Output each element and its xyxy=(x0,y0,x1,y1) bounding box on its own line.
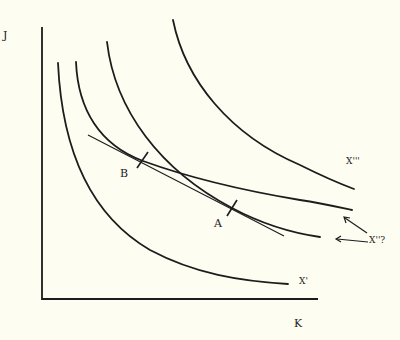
axes xyxy=(42,27,318,299)
diagram-canvas xyxy=(0,0,400,340)
x-axis-label: K xyxy=(294,318,302,329)
curve-x-triple-prime xyxy=(173,20,354,189)
arrow-to-upper-curve xyxy=(345,218,367,233)
curve-x-prime xyxy=(58,63,288,284)
y-axis-label: J xyxy=(3,30,7,41)
curve-label-x-triple-prime: X''' xyxy=(346,157,360,166)
point-b-label: B xyxy=(120,168,128,179)
curve-label-x-prime: X' xyxy=(299,277,308,286)
tangent-line xyxy=(88,135,284,236)
arrow-to-lower-curve xyxy=(337,239,368,242)
curve-label-x-double-prime: X''? xyxy=(369,236,385,245)
curve-x-double-prime-lower xyxy=(107,42,320,237)
point-a-label: A xyxy=(214,218,222,229)
